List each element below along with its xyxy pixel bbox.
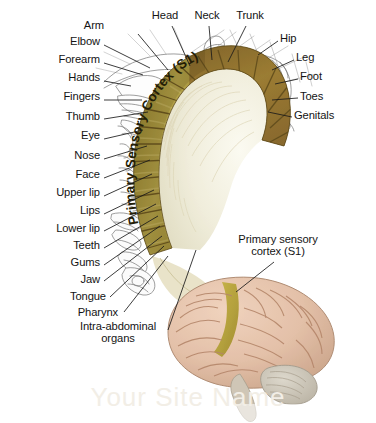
intra-abdominal-line1: Intra-abdominal xyxy=(80,320,156,332)
body-part-label-hands: Hands xyxy=(0,71,100,83)
body-part-label-tongue: Tongue xyxy=(0,290,106,302)
body-part-label-thumb: Thumb xyxy=(0,110,100,122)
intra-abdominal-line2: organs xyxy=(101,332,135,344)
body-part-label-leg: Leg xyxy=(296,51,314,63)
body-part-label-foot: Foot xyxy=(300,70,322,82)
body-part-label-arm: Arm xyxy=(0,19,104,31)
brain-callout-primary-sensory-cortex: Primary sensorycortex (S1) xyxy=(226,233,330,258)
brain-callout-line1: Primary sensory xyxy=(238,233,317,245)
brain-callout-line2: cortex (S1) xyxy=(251,245,305,257)
body-part-label-toes: Toes xyxy=(300,90,323,102)
body-part-label-genitals: Genitals xyxy=(294,109,334,121)
body-part-label-lips: Lips xyxy=(0,204,100,216)
body-part-label-jaw: Jaw xyxy=(0,273,100,285)
figure-canvas: Primary Sensory Cortex (S1) xyxy=(0,0,376,423)
body-part-label-face: Face xyxy=(0,168,100,180)
body-part-label-pharynx: Pharynx xyxy=(0,306,118,318)
body-part-label-upper-lip: Upper lip xyxy=(0,186,100,198)
body-part-label-fingers: Fingers xyxy=(0,90,100,102)
body-part-label-forearm: Forearm xyxy=(0,53,100,65)
body-part-label-intra-abdominal-organs: Intra-abdominalorgans xyxy=(68,320,168,345)
body-part-label-gums: Gums xyxy=(0,256,100,268)
body-part-label-elbow: Elbow xyxy=(0,35,100,47)
body-part-label-nose: Nose xyxy=(0,149,100,161)
watermark: Your Site Name xyxy=(0,382,376,413)
body-part-label-lower-lip: Lower lip xyxy=(0,222,100,234)
body-part-label-eye: Eye xyxy=(0,129,100,141)
body-part-label-trunk: Trunk xyxy=(210,9,290,21)
body-part-label-teeth: Teeth xyxy=(0,239,100,251)
body-part-label-hip: Hip xyxy=(280,32,297,44)
